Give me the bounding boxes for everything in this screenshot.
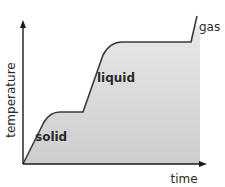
y-axis-label: temperature bbox=[4, 62, 18, 137]
phase-label-liquid: liquid bbox=[97, 71, 135, 85]
x-axis-arrow-icon bbox=[199, 161, 207, 167]
heating-curve-diagram: temperature time solid liquid gas bbox=[0, 0, 225, 187]
phase-label-solid: solid bbox=[35, 130, 67, 144]
x-axis-label: time bbox=[170, 172, 197, 186]
y-axis-arrow-icon bbox=[20, 20, 26, 28]
phase-label-gas: gas bbox=[199, 20, 220, 34]
